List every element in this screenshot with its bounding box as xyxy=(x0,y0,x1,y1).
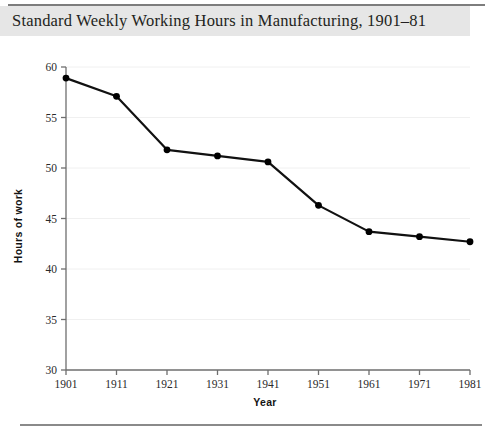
page-title: Standard Weekly Working Hours in Manufac… xyxy=(12,8,472,34)
x-tick-label: 1901 xyxy=(55,378,78,390)
data-point xyxy=(113,93,120,100)
y-axis-title: Hours of work xyxy=(12,186,24,266)
chart-figure: 30354045505560 1901191119211931194119511… xyxy=(0,44,493,424)
data-point xyxy=(164,146,171,153)
x-tick-label: 1971 xyxy=(408,378,431,390)
data-point xyxy=(315,202,322,209)
data-point xyxy=(214,152,221,159)
data-point xyxy=(467,238,474,245)
x-axis-title: Year xyxy=(60,396,470,408)
y-tick-label: 45 xyxy=(46,213,58,225)
x-tick-label: 1961 xyxy=(358,378,381,390)
data-point-markers xyxy=(63,75,474,245)
x-tick-label: 1981 xyxy=(459,378,482,390)
y-tick-label: 55 xyxy=(46,112,58,124)
x-tick-label: 1941 xyxy=(257,378,280,390)
data-point xyxy=(63,75,70,82)
x-tick-label: 1951 xyxy=(307,378,330,390)
line-chart-plot: 30354045505560 1901191119211931194119511… xyxy=(0,44,493,424)
x-tick-label: 1931 xyxy=(206,378,229,390)
bottom-rule xyxy=(20,424,482,426)
y-tick-label: 60 xyxy=(46,61,58,73)
y-axis-ticks: 30354045505560 xyxy=(46,61,67,376)
data-point xyxy=(265,159,272,166)
x-tick-label: 1921 xyxy=(156,378,179,390)
y-tick-label: 40 xyxy=(46,263,58,275)
grid-lines xyxy=(66,67,470,320)
y-tick-label: 30 xyxy=(46,364,58,376)
y-tick-label: 35 xyxy=(46,314,58,326)
y-tick-label: 50 xyxy=(46,162,58,174)
data-point xyxy=(366,228,373,235)
x-tick-label: 1911 xyxy=(105,378,128,390)
x-axis-ticks: 190119111921193119411951196119711981 xyxy=(55,370,482,390)
data-point xyxy=(416,233,423,240)
